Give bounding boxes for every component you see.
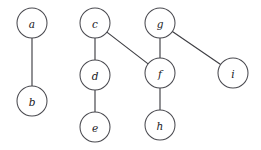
edge-g-i xyxy=(172,31,220,64)
node-b[interactable]: b xyxy=(17,86,47,116)
node-g-label: g xyxy=(157,18,164,30)
graph-diagram: a b c d e f g h xyxy=(0,0,261,150)
node-f[interactable]: f xyxy=(145,58,175,88)
node-h[interactable]: h xyxy=(145,110,175,140)
node-b-label: b xyxy=(29,96,36,108)
node-layer: a b c d e f g h xyxy=(17,8,248,142)
node-i-label: i xyxy=(231,68,234,80)
node-d-label: d xyxy=(92,70,99,82)
node-a[interactable]: a xyxy=(17,8,47,38)
node-d[interactable]: d xyxy=(80,60,110,90)
node-g[interactable]: g xyxy=(145,8,175,38)
node-c-label: c xyxy=(92,18,98,30)
node-e-label: e xyxy=(92,122,98,134)
node-i[interactable]: i xyxy=(218,58,248,88)
node-c[interactable]: c xyxy=(80,8,110,38)
edge-c-f xyxy=(107,32,148,64)
edge-layer xyxy=(32,31,221,112)
node-h-label: h xyxy=(157,120,164,132)
node-e[interactable]: e xyxy=(80,112,110,142)
node-a-label: a xyxy=(29,18,35,30)
